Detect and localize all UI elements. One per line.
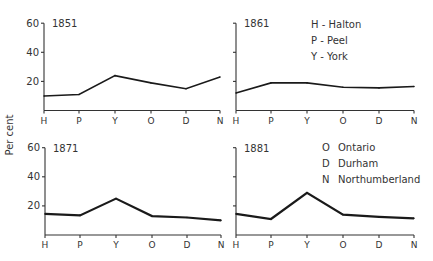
data-point — [413, 218, 415, 220]
x-tick-label: N — [217, 116, 224, 126]
data-point — [270, 218, 272, 220]
data-point — [43, 95, 45, 97]
data-point — [235, 92, 237, 94]
panel-title: 1851 — [52, 18, 77, 29]
x-tick-label: P — [268, 116, 274, 126]
data-point — [378, 216, 380, 218]
panel-title: 1861 — [244, 18, 269, 29]
x-tick-label: D — [376, 116, 383, 126]
series-line-1861 — [236, 83, 414, 93]
x-tick-label: H — [41, 116, 48, 126]
series-line-1881 — [236, 193, 414, 219]
data-point — [220, 220, 222, 222]
data-point — [306, 192, 308, 194]
data-point — [342, 214, 344, 216]
x-tick-label: P — [268, 240, 274, 250]
y-tick-label: 20 — [26, 76, 39, 87]
legend-entry-ontario: OOntario — [322, 142, 375, 153]
x-tick-label: D — [183, 116, 190, 126]
x-tick-label: Y — [112, 240, 119, 250]
x-tick-label: N — [218, 240, 225, 250]
series-line-1851 — [44, 76, 220, 96]
x-tick-label: P — [76, 116, 82, 126]
x-tick-label: Y — [303, 240, 310, 250]
chart: Per cent 204060HPYODN1851HPYODN186120406… — [0, 0, 433, 261]
x-tick-label: O — [339, 116, 346, 126]
x-tick-label: H — [233, 116, 240, 126]
legend-entry-york: Y - York — [310, 51, 348, 62]
legend-entry-halton: H - Halton — [311, 19, 361, 30]
data-point — [114, 75, 116, 77]
legend-entry-durham: DDurham — [322, 158, 378, 169]
data-point — [151, 215, 153, 217]
data-point — [342, 86, 344, 88]
x-tick-label: N — [411, 116, 418, 126]
data-point — [115, 198, 117, 200]
x-tick-label: Y — [303, 116, 310, 126]
legend-entry-northumberland: NNorthumberland — [322, 174, 420, 185]
y-axis-label: Per cent — [4, 114, 15, 155]
data-point — [186, 217, 188, 219]
x-tick-label: H — [233, 240, 240, 250]
panel-1851: 204060HPYODN1851 — [26, 18, 223, 126]
x-tick-label: N — [411, 240, 418, 250]
data-point — [219, 76, 221, 78]
data-point — [185, 88, 187, 90]
x-tick-label: O — [147, 116, 154, 126]
x-tick-label: P — [77, 240, 83, 250]
data-point — [79, 215, 81, 217]
x-tick-label: H — [42, 240, 49, 250]
data-point — [413, 86, 415, 88]
panel-title: 1881 — [244, 143, 269, 154]
data-point — [150, 82, 152, 84]
y-tick-label: 60 — [26, 18, 39, 29]
x-tick-label: D — [184, 240, 191, 250]
x-tick-label: O — [339, 240, 346, 250]
x-tick-label: Y — [111, 116, 118, 126]
data-point — [235, 213, 237, 215]
data-point — [44, 213, 46, 215]
data-point — [306, 82, 308, 84]
y-tick-label: 40 — [27, 171, 40, 182]
data-point — [270, 82, 272, 84]
series-line-1871 — [45, 199, 221, 221]
data-point — [378, 87, 380, 89]
data-point — [78, 94, 80, 96]
y-tick-label: 20 — [27, 200, 40, 211]
x-tick-label: O — [148, 240, 155, 250]
y-tick-label: 60 — [27, 142, 40, 153]
panel-title: 1871 — [53, 143, 78, 154]
panel-1871: 204060HPYODN1871 — [27, 142, 224, 250]
x-tick-label: D — [376, 240, 383, 250]
y-tick-label: 40 — [26, 47, 39, 58]
legend-entry-peel: P - Peel — [311, 35, 348, 46]
